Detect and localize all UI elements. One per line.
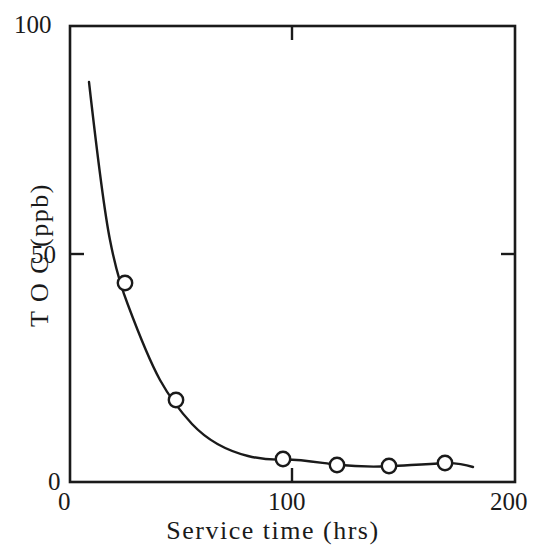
y-axis-title: T O C (ppb) xyxy=(25,125,55,385)
xtick-label-100: 100 xyxy=(268,489,306,514)
data-point-marker xyxy=(330,458,344,472)
data-curve xyxy=(89,82,473,467)
data-point-marker xyxy=(438,456,452,470)
chart-plot-area xyxy=(0,0,546,554)
data-point-marker xyxy=(382,459,396,473)
toc-decay-curve xyxy=(89,82,473,467)
xtick-label-200: 200 xyxy=(490,489,528,514)
data-point-marker xyxy=(276,452,290,466)
x-axis-title: Service time (hrs) xyxy=(0,516,546,546)
data-point-marker xyxy=(118,276,132,290)
ytick-label-100: 100 xyxy=(14,12,52,37)
data-markers xyxy=(118,276,452,473)
chart-figure: 100 50 0 0 100 200 Service time (hrs) T … xyxy=(0,0,546,554)
frame-box xyxy=(70,26,515,482)
axis-frame xyxy=(70,26,515,482)
xtick-label-0: 0 xyxy=(58,489,71,514)
data-point-marker xyxy=(169,393,183,407)
tick-marks xyxy=(70,26,515,482)
